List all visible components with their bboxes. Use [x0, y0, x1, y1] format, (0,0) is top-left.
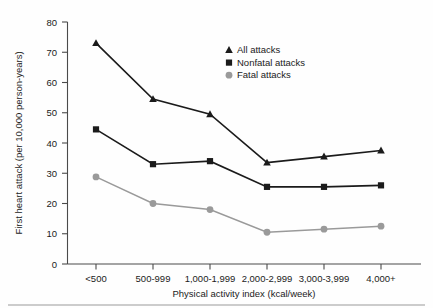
chart-figure: 80 70 60 50 40 30 20 10 0 First heart at…	[0, 0, 433, 308]
x-tick-label: 3,000-3,999	[299, 273, 350, 284]
data-point	[264, 229, 271, 236]
data-point	[321, 226, 328, 233]
series-line	[96, 177, 381, 232]
data-point	[92, 39, 100, 46]
data-point	[207, 158, 213, 164]
y-tick-label: 30	[46, 168, 57, 179]
y-tick-labels: 80 70 60 50 40 30 20 10 0	[46, 17, 57, 270]
y-tick-label: 20	[46, 198, 57, 209]
y-tick-label: 40	[46, 138, 57, 149]
x-tick-label: <500	[85, 273, 106, 284]
data-point	[207, 206, 214, 213]
y-tick-label: 0	[52, 259, 57, 270]
x-tick-label: 1,000-1,999	[185, 273, 236, 284]
series-nonfatal-attacks	[93, 126, 384, 190]
data-point	[378, 182, 384, 188]
data-point	[93, 126, 99, 132]
x-tick-label: 500-999	[136, 273, 171, 284]
x-tick-labels: <500 500-999 1,000-1,999 2,000-2,999 3,0…	[85, 273, 396, 284]
y-tick-label: 70	[46, 47, 57, 58]
y-tick-label: 60	[46, 77, 57, 88]
data-point	[93, 173, 100, 180]
x-tick-label: 2,000-2,999	[242, 273, 293, 284]
y-tick-label: 50	[46, 107, 57, 118]
y-tick-label: 80	[46, 17, 57, 28]
data-point	[264, 184, 270, 190]
x-axis-title: Physical activity index (kcal/week)	[172, 288, 315, 299]
data-point	[321, 184, 327, 190]
series-fatal-attacks	[93, 173, 385, 235]
x-tick-label: 4,000+	[366, 273, 396, 284]
y-axis-title: First heart attack (per 10,000 person-ye…	[13, 51, 24, 234]
data-point	[377, 147, 385, 154]
data-point	[150, 200, 157, 207]
line-chart: 80 70 60 50 40 30 20 10 0 First heart at…	[0, 0, 433, 308]
y-tick-marks	[62, 22, 68, 264]
data-point	[378, 223, 385, 230]
data-point	[150, 161, 156, 167]
legend-triangle-marker	[225, 46, 233, 53]
legend-label: Fatal attacks	[237, 69, 291, 80]
legend-circle-marker	[226, 72, 233, 79]
y-tick-label: 10	[46, 228, 57, 239]
legend-label: All attacks	[237, 44, 281, 55]
legend-label: Nonfatal attacks	[237, 57, 305, 68]
chart-legend: All attacksNonfatal attacksFatal attacks	[225, 44, 305, 80]
x-tick-marks	[96, 264, 381, 270]
legend-square-marker	[226, 60, 232, 66]
